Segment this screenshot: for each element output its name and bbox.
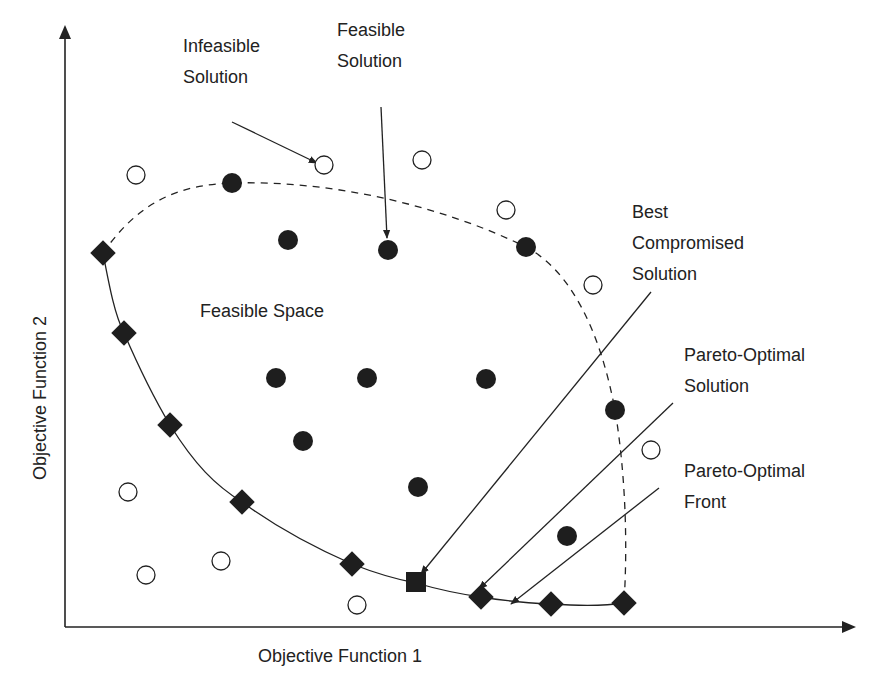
annotation-labels: InfeasibleSolutionFeasibleSolutionFeasib… bbox=[183, 20, 805, 512]
annotation-arrow bbox=[381, 107, 387, 238]
feasible-solution-point bbox=[516, 237, 536, 257]
x-axis-label: Objective Function 1 bbox=[258, 646, 422, 666]
feasible-solution-point bbox=[476, 369, 496, 389]
x-axis-arrowhead-icon bbox=[842, 621, 856, 633]
infeasible-solution-point bbox=[413, 151, 431, 169]
annotation-label: FeasibleSolution bbox=[337, 20, 405, 71]
pareto-diagram: InfeasibleSolutionFeasibleSolutionFeasib… bbox=[0, 0, 882, 690]
infeasible-solution-point bbox=[642, 441, 660, 459]
annotation-arrow bbox=[479, 403, 673, 589]
annotation-label: Pareto-OptimalFront bbox=[684, 461, 805, 512]
annotation-arrow bbox=[511, 488, 659, 604]
annotation-arrow bbox=[421, 292, 651, 574]
axes bbox=[59, 25, 856, 633]
feasible-solution-point bbox=[378, 240, 398, 260]
best-compromise-point bbox=[406, 572, 426, 592]
annotation-arrows bbox=[232, 107, 673, 604]
pareto-optimal-point bbox=[468, 584, 493, 609]
infeasible-solution-point bbox=[497, 201, 515, 219]
pareto-optimal-point bbox=[538, 591, 563, 616]
feasible-boundary bbox=[103, 183, 626, 603]
annotation-label: Feasible Space bbox=[200, 301, 324, 321]
infeasible-solution-point bbox=[315, 156, 333, 174]
y-axis-arrowhead-icon bbox=[59, 25, 71, 39]
infeasible-solution-point bbox=[137, 566, 155, 584]
annotation-arrow bbox=[232, 122, 317, 163]
infeasible-solution-point bbox=[584, 276, 602, 294]
pareto-optimal-point bbox=[339, 551, 364, 576]
feasible-solution-point bbox=[293, 431, 313, 451]
y-axis-label: Objective Function 2 bbox=[30, 316, 50, 480]
solution-points bbox=[90, 151, 660, 617]
infeasible-solution-point bbox=[127, 166, 145, 184]
annotation-label: InfeasibleSolution bbox=[183, 36, 260, 87]
feasible-solution-point bbox=[605, 400, 625, 420]
annotation-label: BestCompromisedSolution bbox=[632, 202, 744, 284]
feasible-solution-point bbox=[357, 368, 377, 388]
feasible-solution-point bbox=[222, 173, 242, 193]
pareto-optimal-point bbox=[111, 320, 136, 345]
feasible-solution-point bbox=[557, 526, 577, 546]
feasible-solution-point bbox=[266, 368, 286, 388]
feasible-solution-point bbox=[408, 477, 428, 497]
pareto-optimal-point bbox=[611, 590, 636, 615]
pareto-optimal-point bbox=[157, 412, 182, 437]
pareto-front-curve bbox=[103, 253, 624, 605]
pareto-optimal-point bbox=[229, 489, 254, 514]
feasible-solution-point bbox=[278, 230, 298, 250]
infeasible-solution-point bbox=[119, 483, 137, 501]
infeasible-solution-point bbox=[212, 552, 230, 570]
infeasible-solution-point bbox=[348, 596, 366, 614]
annotation-label: Pareto-OptimalSolution bbox=[684, 345, 805, 396]
pareto-optimal-point bbox=[90, 240, 115, 265]
